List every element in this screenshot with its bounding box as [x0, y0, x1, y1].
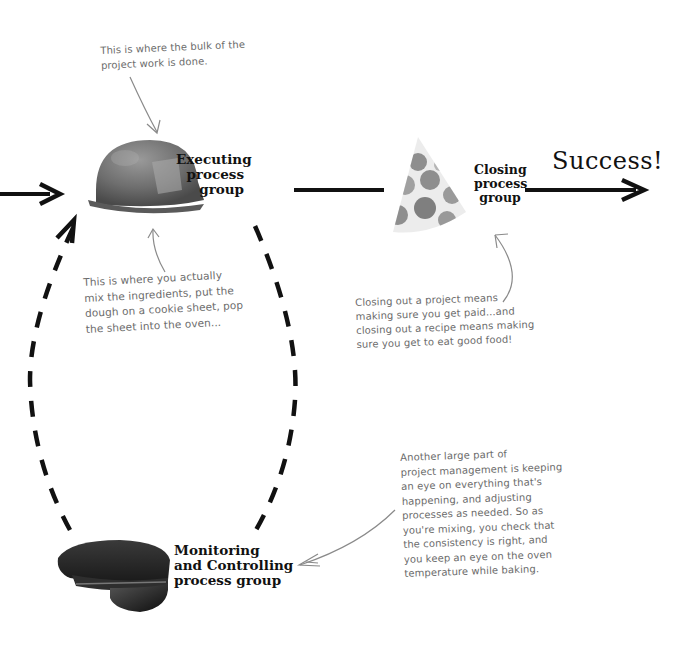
closing-to-success-arrow: [525, 180, 644, 200]
party-hat-icon: [388, 137, 466, 233]
closing-process-group-label: Closing process group: [474, 163, 526, 205]
monitoring-controlling-process-group-label: Monitoring and Controlling process group: [174, 543, 314, 588]
loop-right-dashed-line: [255, 226, 296, 530]
monitoring-annotation: Another large part of project management…: [400, 445, 566, 581]
arrow-top-note: [130, 77, 157, 132]
closing-annotation: Closing out a project means making sure …: [355, 290, 535, 352]
executing-bottom-annotation: This is where you actually mix the ingre…: [83, 267, 244, 337]
process-groups-diagram: Executing process group Closing process …: [0, 0, 685, 662]
executing-top-annotation: This is where the bulk of the project wo…: [100, 37, 246, 73]
loop-left-dashed-arrow: [30, 228, 73, 530]
police-cap-icon: [58, 540, 170, 612]
success-outcome-label: Success!: [552, 147, 663, 175]
executing-process-group-label: Executing process group: [176, 152, 244, 197]
incoming-arrow: [0, 184, 60, 204]
